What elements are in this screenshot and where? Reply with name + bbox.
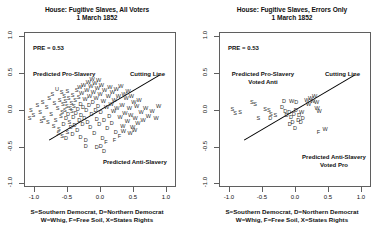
- xtick-mark: [229, 187, 230, 192]
- xtick-label-4: 0.5: [123, 194, 143, 200]
- annotation-line1: Predicted Anti-Slavery: [103, 159, 167, 165]
- data-point-S: S: [253, 101, 257, 107]
- ytick-label-4: -0.5: [202, 137, 208, 155]
- panel-title: House: Fugitive Slaves, Errors Only 1 Ma…: [195, 6, 389, 23]
- ytick-label-3: 0.0: [7, 100, 13, 118]
- xtick-label-3: 0.0: [90, 194, 110, 200]
- data-point-S: S: [54, 117, 58, 123]
- data-point-F: F: [113, 137, 117, 143]
- annotation-line1: Predicted Pro-Slavery: [33, 71, 95, 77]
- annotation-line2: Voted Pro: [320, 162, 348, 168]
- cutting-line-label: Cutting Line: [325, 71, 360, 77]
- data-point-S: S: [39, 118, 43, 124]
- data-point-W: W: [153, 115, 159, 121]
- data-point-D: D: [61, 121, 65, 127]
- panel-title-line2: 1 March 1852: [195, 14, 389, 22]
- data-point-S: S: [233, 110, 237, 116]
- data-point-D: D: [102, 117, 106, 123]
- data-point-W: W: [134, 103, 140, 109]
- xtick-mark: [262, 187, 263, 192]
- annotation-predicted-anti-slavery: Predicted Anti-Slavery: [103, 159, 167, 167]
- xtick-label-5: 1.0: [156, 194, 176, 200]
- ytick-label-1: 1.0: [202, 26, 208, 44]
- ytick-label-4: -0.5: [7, 137, 13, 155]
- pre-statistic: PRE = 0.53: [228, 45, 259, 51]
- data-point-S: S: [56, 105, 60, 111]
- data-point-D: D: [293, 125, 297, 131]
- x-axis-label-line1: S=Southern Democrat, D=Northern Democrat: [30, 208, 163, 215]
- ytick-label-5: -1.0: [202, 173, 208, 191]
- annotation-predicted-pro-slavery: Predicted Pro-Slavery: [33, 71, 95, 79]
- data-point-S: S: [49, 111, 53, 117]
- pre-statistic: PRE = 0.53: [33, 45, 64, 51]
- xtick-mark: [166, 187, 167, 192]
- xtick-label-1: -1.0: [24, 194, 44, 200]
- xtick-mark: [34, 187, 35, 192]
- data-point-W: W: [121, 128, 127, 134]
- data-point-D: D: [110, 120, 114, 126]
- xtick-mark: [67, 187, 68, 192]
- data-point-D: D: [84, 107, 88, 113]
- data-point-D: D: [64, 135, 68, 141]
- panel-title-line1: House: Fugitive Slaves, Errors Only: [237, 6, 347, 13]
- x-axis-label-line1: S=Southern Democrat, D=Northern Democrat: [225, 208, 358, 215]
- data-point-W: W: [299, 109, 305, 115]
- data-point-D: D: [294, 99, 298, 105]
- xtick-mark: [361, 187, 362, 192]
- annotation-cutting-line: Cutting Line: [325, 71, 360, 79]
- data-point-W: W: [120, 102, 126, 108]
- data-point-S: S: [51, 91, 55, 97]
- data-point-S: S: [45, 104, 49, 110]
- data-point-W: W: [322, 126, 328, 132]
- data-point-F: F: [317, 129, 321, 135]
- data-point-F: F: [104, 139, 108, 145]
- data-point-D: D: [105, 125, 109, 131]
- data-point-D: D: [92, 130, 96, 136]
- annotation-cutting-line: Cutting Line: [130, 71, 165, 79]
- data-point-W: W: [118, 83, 124, 89]
- data-point-S: S: [238, 109, 242, 115]
- data-point-W: W: [137, 97, 143, 103]
- figure-root: House: Fugitive Slaves, All Voters 1 Mar…: [0, 0, 389, 238]
- panel-title-line1: House: Fugitive Slaves, All Voters: [45, 6, 149, 13]
- xtick-label-5: 1.0: [351, 194, 371, 200]
- panel-errors-only: House: Fugitive Slaves, Errors Only 1 Ma…: [195, 0, 389, 238]
- data-point-S: S: [257, 115, 261, 121]
- data-point-D: D: [71, 131, 75, 137]
- data-point-S: S: [56, 130, 60, 136]
- data-point-D: D: [102, 148, 106, 154]
- data-point-F: F: [118, 133, 122, 139]
- data-point-D: D: [99, 109, 103, 115]
- data-point-S: S: [60, 133, 64, 139]
- data-point-D: D: [80, 121, 84, 127]
- data-point-S: S: [274, 112, 278, 118]
- data-point-U: U: [55, 86, 59, 92]
- x-axis-label-line2: W=Whig, F=Free Soil, X=States Rights: [195, 216, 389, 224]
- panel-title-line2: 1 March 1852: [0, 14, 194, 22]
- ytick-label-3: 0.0: [202, 100, 208, 118]
- annotation-predicted-anti-slavery: Predicted Anti-Slavery Voted Pro: [294, 154, 374, 169]
- annotation-predicted-pro-slavery: Predicted Pro-Slavery Voted Anti: [223, 71, 303, 86]
- data-point-S: S: [66, 88, 70, 94]
- data-point-W: W: [150, 108, 156, 114]
- data-point-W: W: [127, 105, 133, 111]
- data-point-D: D: [75, 127, 79, 133]
- x-axis-label: S=Southern Democrat, D=Northern Democrat…: [0, 208, 194, 224]
- data-point-D: D: [96, 103, 100, 109]
- x-axis-label-line2: W=Whig, F=Free Soil, X=States Rights: [0, 216, 194, 224]
- data-point-S: S: [52, 123, 56, 129]
- data-point-W: W: [132, 127, 138, 133]
- xtick-label-3: 0.0: [285, 194, 305, 200]
- data-point-S: S: [32, 112, 36, 118]
- annotation-line2: Voted Anti: [248, 79, 277, 85]
- xtick-label-1: -1.0: [219, 194, 239, 200]
- data-point-D: D: [299, 119, 303, 125]
- data-point-S: S: [46, 119, 50, 125]
- cutting-line-label: Cutting Line: [130, 71, 165, 77]
- x-axis-label: S=Southern Democrat, D=Northern Democrat…: [195, 208, 389, 224]
- panel-all-voters: House: Fugitive Slaves, All Voters 1 Mar…: [0, 0, 194, 238]
- data-point-W: W: [317, 108, 323, 114]
- xtick-label-2: -0.5: [57, 194, 77, 200]
- data-point-S: S: [28, 115, 32, 121]
- data-point-D: D: [84, 143, 88, 149]
